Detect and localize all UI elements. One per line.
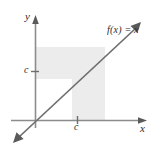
x-tick-label-c: c <box>74 122 78 132</box>
y-axis-label: y <box>25 11 30 22</box>
y-axis-arrowhead <box>32 15 39 24</box>
function-graph-figure: y x c c f(x) = x <box>0 0 162 149</box>
shaded-regions <box>36 47 105 120</box>
function-label: f(x) = x <box>107 25 139 35</box>
y-tick-label-c: c <box>24 65 28 75</box>
x-axis-label: x <box>140 123 145 134</box>
